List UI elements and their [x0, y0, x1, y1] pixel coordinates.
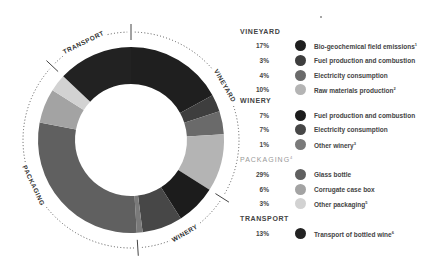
legend-section-winery: WINERY	[240, 97, 271, 104]
legend-label: Fuel production and combustion	[314, 57, 415, 64]
legend-label: Electricity consumption	[314, 126, 388, 133]
legend-row: 13% Transport of bottled wine6	[240, 228, 428, 240]
legend-swatch-dot	[295, 70, 306, 81]
legend-row: 7% Fuel production and combustion	[240, 110, 428, 122]
group-ring-label: PACKAGING	[21, 164, 46, 207]
legend-row: 1% Other winery3	[240, 139, 428, 151]
legend-label: Fuel production and combustion	[314, 112, 415, 119]
group-ring-label: TRANSPORT	[62, 29, 105, 55]
legend-label: Glass bottle	[314, 171, 351, 178]
legend-row: 7% Electricity consumption	[240, 124, 428, 136]
legend-pct: 10%	[240, 86, 269, 93]
legend-pct: 1%	[240, 141, 269, 148]
group-divider-tick	[46, 61, 58, 72]
legend-swatch-dot	[295, 198, 306, 209]
legend-row: 10% Raw materials production2	[240, 84, 428, 96]
legend-row: 3% Other packaging5	[240, 198, 428, 210]
group-divider-tick	[215, 194, 229, 203]
legend-label: Electricity consumption	[314, 72, 388, 79]
legend-pct: 7%	[240, 112, 269, 119]
legend-label: Other packaging5	[314, 200, 368, 208]
legend: VINEYARD 17% Bio-geochemical field emiss…	[240, 0, 428, 272]
legend-section-transport: TRANSPORT	[240, 215, 289, 222]
legend-pct: 3%	[240, 200, 269, 207]
group-divider-tick	[137, 240, 138, 256]
legend-pct: 7%	[240, 126, 269, 133]
legend-row: 29% Glass bottle	[240, 169, 428, 181]
legend-pct: 6%	[240, 186, 269, 193]
legend-swatch-dot	[295, 40, 306, 51]
legend-row: 6% Corrugate case box	[240, 184, 428, 196]
legend-swatch-dot	[295, 110, 306, 121]
legend-label: Bio-geochemical field emissions1	[314, 42, 417, 50]
legend-section-packaging: PACKAGING4	[240, 155, 293, 163]
legend-label: Raw materials production2	[314, 86, 396, 94]
legend-label: Other winery3	[314, 141, 356, 149]
legend-swatch-dot	[295, 228, 306, 239]
legend-swatch-dot	[295, 55, 306, 66]
legend-row: 4% Electricity consumption	[240, 70, 428, 82]
group-ring-label: VINEYARD	[213, 68, 238, 104]
legend-pct: 3%	[240, 57, 269, 64]
legend-label: Transport of bottled wine6	[314, 230, 394, 238]
legend-swatch-dot	[295, 139, 306, 150]
legend-section-vineyard: VINEYARD	[240, 28, 280, 35]
legend-pct: 13%	[240, 230, 269, 237]
donut-segment	[38, 123, 137, 233]
legend-swatch-dot	[295, 84, 306, 95]
donut-chart: VINEYARDWINERYPACKAGINGTRANSPORT	[0, 0, 240, 272]
legend-swatch-dot	[295, 124, 306, 135]
legend-row: 17% Bio-geochemical field emissions1	[240, 40, 428, 52]
legend-pct: 17%	[240, 42, 269, 49]
legend-swatch-dot	[295, 184, 306, 195]
legend-swatch-dot	[295, 169, 306, 180]
legend-pct: 4%	[240, 72, 269, 79]
legend-label: Corrugate case box	[314, 186, 375, 193]
legend-pct: 29%	[240, 171, 269, 178]
legend-row: 3% Fuel production and combustion	[240, 55, 428, 67]
